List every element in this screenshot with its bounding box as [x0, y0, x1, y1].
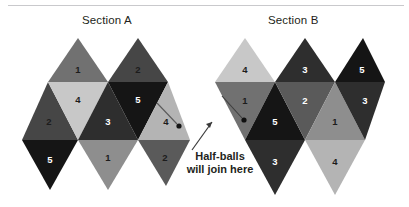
section-a-face-5-bottom	[22, 140, 78, 190]
figure-canvas: Section A Section B 1 2 2 4 3 5 4	[0, 0, 409, 207]
section-b-num-1-left: 1	[242, 95, 248, 106]
section-b-face-4-top	[215, 38, 275, 82]
section-b-num-3-top: 3	[302, 64, 307, 75]
section-a-group: 1 2 2 4 3 5 4 5 1 2	[22, 38, 190, 190]
section-b-face-4-bottom	[305, 140, 365, 195]
leader-dot-b	[241, 117, 246, 122]
section-b-num-4-bottom: 4	[332, 156, 338, 167]
section-b-num-2-mid: 2	[302, 95, 307, 106]
section-b-num-4-top: 4	[242, 64, 248, 75]
join-caption-line-1: Half-balls	[178, 150, 262, 163]
section-a-num-1-top: 1	[75, 64, 81, 75]
section-b-num-1-right: 1	[332, 116, 338, 127]
section-a-face-2-top	[108, 38, 168, 82]
section-b-face-5-top	[335, 38, 385, 82]
section-b-face-3-top	[275, 38, 335, 82]
section-a-face-1-top	[48, 38, 108, 82]
section-b-num-5-mid: 5	[272, 116, 278, 127]
section-b-num-3-bottom: 3	[272, 156, 277, 167]
section-a-num-3-mid: 3	[105, 116, 110, 127]
join-arrow	[192, 122, 212, 150]
section-b-num-5-top: 5	[359, 64, 365, 75]
section-a-num-2-left: 2	[46, 116, 51, 127]
section-a-face-1-bottom	[78, 140, 138, 190]
section-a-num-5-mid: 5	[135, 94, 141, 105]
section-a-num-4-right: 4	[163, 116, 169, 127]
section-a-num-2-top: 2	[135, 64, 140, 75]
section-a-num-4-left: 4	[75, 94, 81, 105]
section-b-num-3-right: 3	[362, 95, 367, 106]
section-a-num-5-bottom: 5	[47, 154, 53, 165]
section-a-num-1-bottom: 1	[105, 152, 111, 163]
section-a-num-2-bottom: 2	[162, 152, 167, 163]
join-caption-line-2: will join here	[170, 163, 270, 176]
leader-dot-a	[176, 123, 181, 128]
